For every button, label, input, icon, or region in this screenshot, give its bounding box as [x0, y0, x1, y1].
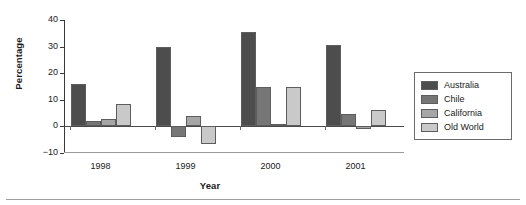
- y-axis-title: Percentage: [13, 19, 24, 109]
- bar-chile-2001: [341, 114, 356, 126]
- y-tick-label: 30: [34, 42, 58, 51]
- x-axis-title: Year: [60, 180, 360, 191]
- legend-item-old-world[interactable]: Old World: [421, 120, 505, 134]
- legend-swatch-icon: [421, 109, 438, 118]
- y-tick-label: 20: [34, 68, 58, 77]
- x-tick-mark: [240, 126, 241, 130]
- y-tick-label: 10: [34, 95, 58, 104]
- bar-australia-1998: [71, 84, 86, 127]
- legend-swatch-icon: [421, 95, 438, 104]
- bar-chile-2000: [256, 87, 271, 127]
- y-tick-mark: [60, 47, 64, 48]
- legend-item-california[interactable]: California: [421, 106, 505, 120]
- bar-old-world-1999: [201, 126, 216, 143]
- bar-australia-2001: [326, 45, 341, 126]
- x-tick-label-2000: 2000: [241, 161, 301, 171]
- x-tick-label-2001: 2001: [326, 161, 386, 171]
- legend-item-chile[interactable]: Chile: [421, 92, 505, 106]
- y-tick-label: 0: [34, 121, 58, 130]
- legend-label: Chile: [444, 94, 465, 104]
- x-axis-baseline: [64, 152, 404, 153]
- bar-australia-1999: [156, 47, 171, 127]
- bar-california-2001: [356, 126, 371, 129]
- bar-california-1998: [101, 119, 116, 126]
- legend-swatch-icon: [421, 123, 438, 132]
- chart-legend: AustraliaChileCaliforniaOld World: [414, 72, 512, 140]
- y-tick-label: −10: [34, 148, 58, 157]
- bar-old-world-1998: [116, 104, 131, 127]
- legend-label: California: [444, 108, 482, 118]
- x-tick-mark: [70, 126, 71, 130]
- x-tick-label-1998: 1998: [71, 161, 131, 171]
- legend-label: Old World: [444, 122, 484, 132]
- x-tick-mark: [155, 126, 156, 130]
- y-axis-line: [64, 20, 65, 153]
- bar-old-world-2001: [371, 110, 386, 126]
- bar-california-2000: [271, 124, 286, 127]
- x-tick-mark: [325, 126, 326, 130]
- y-tick-mark: [60, 20, 64, 21]
- bar-california-1999: [186, 116, 201, 127]
- bottom-divider: [6, 199, 520, 200]
- y-tick-mark: [60, 100, 64, 101]
- legend-item-australia[interactable]: Australia: [421, 78, 505, 92]
- bar-australia-2000: [241, 32, 256, 126]
- bar-chile-1998: [86, 121, 101, 126]
- plot-area: 403020100−10 1998199920002001: [64, 20, 404, 153]
- y-tick-label: 40: [34, 15, 58, 24]
- zero-reference-line: [64, 126, 404, 127]
- legend-swatch-icon: [421, 81, 438, 90]
- bar-old-world-2000: [286, 87, 301, 127]
- y-tick-mark: [60, 153, 64, 154]
- y-tick-mark: [60, 73, 64, 74]
- bar-chile-1999: [171, 126, 186, 137]
- x-tick-label-1999: 1999: [156, 161, 216, 171]
- legend-label: Australia: [444, 80, 479, 90]
- bar-chart-figure: Percentage Year 403020100−10 19981999200…: [0, 0, 526, 205]
